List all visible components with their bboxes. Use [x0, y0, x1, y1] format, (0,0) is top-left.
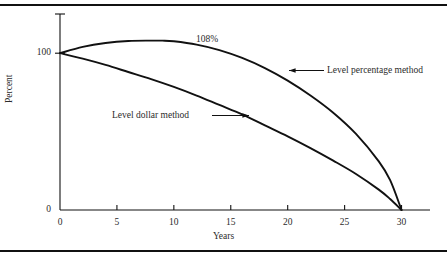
y-axis-title: Percent: [5, 75, 15, 104]
x-tick-label-30: 30: [397, 218, 407, 228]
figure-container: 051015202530 0100 Percent Years 108% Lev…: [0, 0, 447, 261]
x-tick-label-20: 20: [283, 218, 293, 228]
chart-plot-area: [0, 0, 447, 261]
x-tick-label-0: 0: [58, 218, 63, 228]
peak-value-annotation: 108%: [196, 35, 218, 45]
x-axis-title: Years: [0, 232, 447, 242]
curve-level-dollar-method: [60, 53, 402, 210]
x-tick-label-5: 5: [115, 218, 120, 228]
x-tick-label-15: 15: [226, 218, 236, 228]
level-percentage-method-annotation-arrowhead: [289, 68, 296, 73]
series-label-level-dollar-method: Level dollar method: [112, 111, 189, 121]
series-label-level-percentage-method: Level percentage method: [327, 66, 423, 76]
x-tick-label-10: 10: [169, 218, 179, 228]
x-tick-label-25: 25: [340, 218, 350, 228]
y-tick-label-100: 100: [14, 48, 51, 58]
y-tick-label-0: 0: [14, 205, 51, 215]
